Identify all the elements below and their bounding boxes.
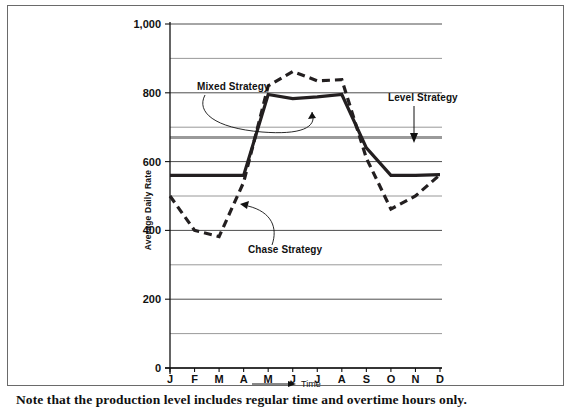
y-tick-label: 1,000: [133, 18, 161, 30]
x-tick-label: D: [436, 373, 444, 385]
annotation-chase-strategy-leader: [248, 206, 274, 245]
x-tick-label: J: [167, 373, 173, 385]
x-tick-label: A: [338, 373, 346, 385]
x-tick-label: A: [240, 373, 248, 385]
y-tick-label: 0: [155, 362, 161, 374]
chart-canvas: 02004006008001,000 JFMAMJJASOND Average …: [0, 0, 577, 420]
figure-container: 02004006008001,000 JFMAMJJASOND Average …: [0, 0, 577, 420]
x-tick-label: M: [264, 373, 273, 385]
annotation-chase-strategy: Chase Strategy: [240, 201, 323, 255]
mixed-strategy-series: [170, 95, 440, 176]
gridline-group: [170, 24, 442, 368]
x-tick-label: M: [215, 373, 224, 385]
annotation-chase-strategy-label: Chase Strategy: [248, 244, 323, 255]
y-tick-label: 800: [143, 87, 161, 99]
x-axis-title-group: Time: [252, 379, 321, 389]
annotation-level-strategy-label: Level Strategy: [388, 92, 458, 103]
x-tick-label: N: [411, 373, 419, 385]
annotation-mixed-strategy-label: Mixed Strategy: [197, 81, 270, 92]
annotation-mixed-strategy: Mixed Strategy: [197, 81, 316, 133]
y-tick-label: 200: [143, 293, 161, 305]
x-tick-label: S: [363, 373, 370, 385]
annotation-chase-strategy-arrow-icon: [240, 201, 249, 209]
annotation-mixed-strategy-arrow-icon: [308, 112, 316, 119]
x-tick-label: O: [387, 373, 396, 385]
figure-caption: Note that the production level includes …: [16, 392, 556, 408]
x-tick-label: F: [191, 373, 198, 385]
y-axis-title: Average Daily Rate: [143, 170, 153, 250]
x-axis-title: Time: [301, 379, 321, 389]
y-tick-label: 600: [143, 156, 161, 168]
annotation-level-strategy: Level Strategy: [388, 92, 458, 143]
